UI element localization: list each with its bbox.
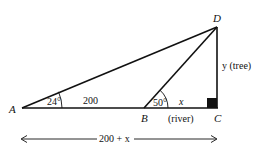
point-label-b: B: [141, 113, 148, 124]
segment-label-tree: y (tree): [222, 61, 251, 71]
point-label-d: D: [213, 13, 221, 24]
dimension-label-total: 200 + x: [99, 134, 130, 144]
point-label-a: A: [9, 104, 16, 115]
segment-label-bc-variable: x: [179, 97, 183, 107]
segment-label-ab: 200: [83, 96, 98, 106]
point-label-c: C: [214, 113, 221, 124]
segment-label-river: (river): [168, 114, 194, 124]
angle-label-b: 50°: [153, 98, 167, 108]
right-angle-mark: [207, 98, 217, 108]
triangle-diagram: [0, 0, 262, 144]
angle-label-a: 24°: [47, 97, 61, 107]
